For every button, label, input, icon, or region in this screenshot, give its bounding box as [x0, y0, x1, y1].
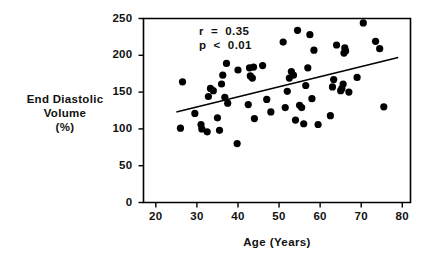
x-tick-label: 40 — [225, 210, 251, 222]
x-tick-label: 30 — [184, 210, 210, 222]
data-point — [290, 72, 297, 79]
y-tick-label: 50 — [103, 159, 133, 171]
data-point — [282, 104, 289, 111]
y-tick-label: 100 — [103, 122, 133, 134]
data-point — [329, 83, 336, 90]
x-tick-label: 50 — [266, 210, 292, 222]
y-axis-label-line-2: Volume — [2, 106, 128, 120]
data-point — [259, 62, 266, 69]
data-point — [204, 128, 211, 135]
data-point — [314, 121, 321, 128]
data-point — [354, 74, 361, 81]
data-point — [372, 38, 379, 45]
data-point — [292, 116, 299, 123]
axes-group — [139, 19, 411, 208]
data-point — [294, 27, 301, 34]
data-point — [360, 19, 367, 26]
data-point — [300, 120, 307, 127]
data-point — [330, 76, 337, 83]
data-point — [216, 127, 223, 134]
data-point — [234, 140, 241, 147]
x-tick-label: 60 — [307, 210, 333, 222]
y-tick-label: 200 — [103, 48, 133, 60]
data-point — [210, 87, 217, 94]
data-point — [304, 64, 311, 71]
data-point — [284, 88, 291, 95]
data-point — [249, 75, 256, 82]
data-point — [267, 108, 274, 115]
data-point — [302, 82, 309, 89]
y-tick-label: 150 — [103, 85, 133, 97]
data-point — [306, 31, 313, 38]
x-tick-label: 70 — [348, 210, 374, 222]
data-point — [214, 114, 221, 121]
data-point — [223, 60, 230, 67]
data-point — [308, 95, 315, 102]
data-point — [219, 72, 226, 79]
chart-annotation: p < 0.01 — [199, 39, 252, 51]
y-tick-label: 0 — [103, 196, 133, 208]
chart-annotation: r = 0.35 — [199, 25, 249, 37]
data-point — [342, 47, 349, 54]
data-point — [298, 104, 305, 111]
data-point — [376, 45, 383, 52]
y-tick-label: 250 — [103, 12, 133, 24]
data-point — [179, 78, 186, 85]
data-point — [177, 125, 184, 132]
data-point — [251, 115, 258, 122]
data-point — [191, 110, 198, 117]
data-point — [218, 80, 225, 87]
scatter-plot-figure: End Diastolic Volume (%) Age (Years) 203… — [0, 0, 427, 270]
data-point — [280, 38, 287, 45]
data-point — [263, 96, 270, 103]
data-point — [245, 101, 252, 108]
regression-trendline — [176, 58, 398, 112]
data-point — [310, 47, 317, 54]
x-axis-label: Age (Years) — [143, 236, 411, 248]
x-tick-label: 20 — [143, 210, 169, 222]
data-point — [234, 66, 241, 73]
data-point — [340, 80, 347, 87]
data-point — [333, 41, 340, 48]
data-point — [205, 93, 212, 100]
x-tick-label: 80 — [389, 210, 415, 222]
data-point — [380, 103, 387, 110]
data-point — [345, 89, 352, 96]
data-point — [327, 112, 334, 119]
data-point — [250, 63, 257, 70]
